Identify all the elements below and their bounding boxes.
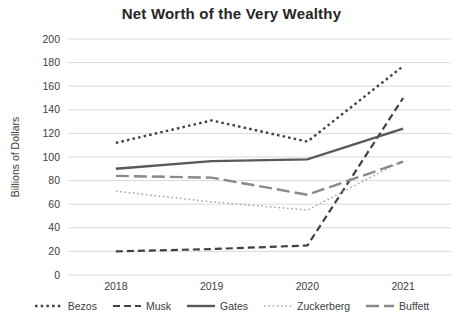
series-line-musk <box>116 98 403 251</box>
x-tick-label: 2021 <box>391 280 415 292</box>
y-tick-label: 0 <box>54 269 60 281</box>
net-worth-chart: Net Worth of the Very Wealthy Billions o… <box>0 0 463 329</box>
y-tick-label: 160 <box>42 80 60 92</box>
y-tick-label: 100 <box>42 151 60 163</box>
legend-item-gates: Gates <box>186 300 248 312</box>
y-tick-label: 60 <box>48 198 60 210</box>
series-line-buffett <box>116 162 403 195</box>
y-tick-label: 140 <box>42 103 60 115</box>
x-tick-label: 2020 <box>296 280 320 292</box>
x-tick-label: 2019 <box>200 280 224 292</box>
legend-label: Musk <box>146 300 171 312</box>
legend-line-sample <box>186 301 216 311</box>
legend-line-sample <box>365 301 395 311</box>
legend-item-buffett: Buffett <box>365 300 429 312</box>
y-tick-label: 180 <box>42 56 60 68</box>
legend-label: Buffett <box>399 300 429 312</box>
series-line-bezos <box>116 66 403 143</box>
x-tick-label: 2018 <box>104 280 128 292</box>
y-tick-label: 120 <box>42 127 60 139</box>
legend-line-sample <box>34 301 64 311</box>
legend-line-sample <box>112 301 142 311</box>
plot-area: 0204060801001201401601802002018201920202… <box>0 0 463 329</box>
legend-label: Zuckerberg <box>297 300 350 312</box>
y-tick-label: 200 <box>42 33 60 45</box>
legend-line-sample <box>263 301 293 311</box>
legend-label: Gates <box>220 300 248 312</box>
legend: BezosMuskGatesZuckerbergBuffett <box>0 300 463 312</box>
legend-item-musk: Musk <box>112 300 171 312</box>
legend-item-zuckerberg: Zuckerberg <box>263 300 350 312</box>
y-tick-label: 20 <box>48 245 60 257</box>
y-tick-label: 80 <box>48 174 60 186</box>
y-tick-label: 40 <box>48 221 60 233</box>
legend-item-bezos: Bezos <box>34 300 97 312</box>
legend-label: Bezos <box>68 300 97 312</box>
